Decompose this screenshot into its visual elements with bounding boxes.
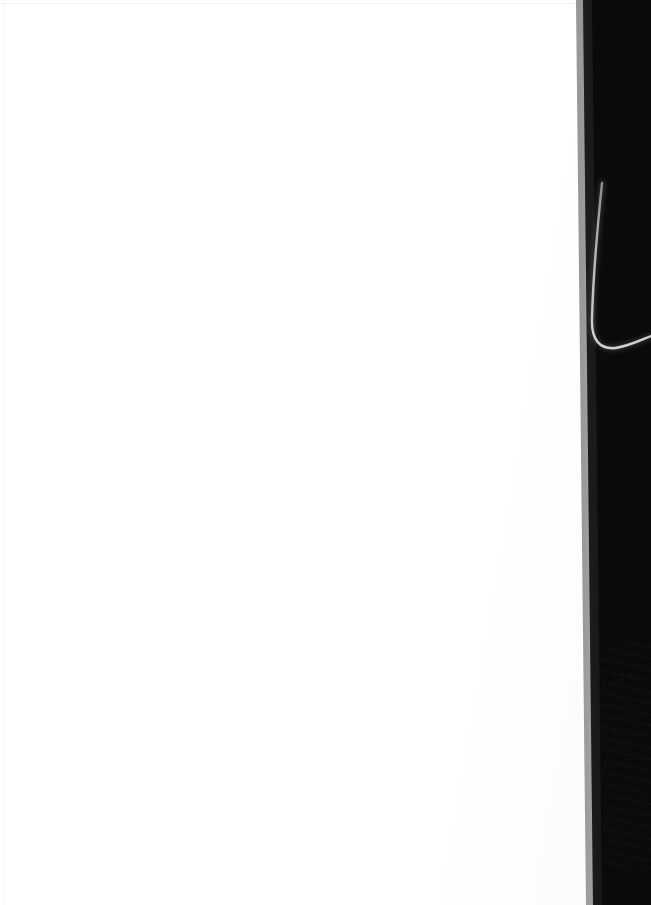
page-left-edge-line — [4, 0, 5, 905]
blank-white-page — [0, 0, 651, 905]
photo-canvas: Photograph of the right-hand edge of a b… — [0, 0, 651, 905]
page-tint-gradient — [0, 0, 651, 905]
page-top-edge-line — [0, 3, 600, 4]
